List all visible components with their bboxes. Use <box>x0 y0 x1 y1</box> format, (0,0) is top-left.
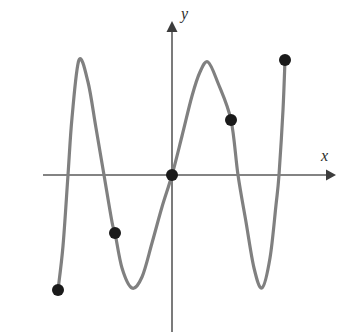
left-endpoint-point <box>52 284 64 296</box>
x-axis-arrowhead <box>326 170 336 181</box>
graph-figure: y x <box>0 0 354 332</box>
upper-right-point <box>225 114 237 126</box>
origin-point <box>166 169 178 181</box>
plot-canvas <box>0 0 354 332</box>
axes-group <box>43 21 336 332</box>
lower-left-point <box>109 227 121 239</box>
x-axis-label: x <box>321 148 328 164</box>
y-axis-arrowhead <box>167 21 178 32</box>
right-endpoint-point <box>279 54 291 66</box>
y-axis-label: y <box>181 6 188 22</box>
